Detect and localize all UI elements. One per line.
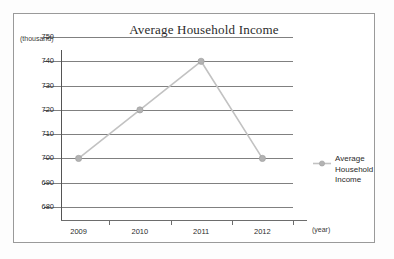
x-axis-tick [232, 220, 233, 225]
x-axis-tick-label: 2010 [120, 227, 160, 236]
x-axis-tick [293, 220, 294, 225]
x-axis-unit-label: (year) [312, 226, 330, 233]
gridline [48, 37, 293, 38]
gridline [48, 110, 293, 111]
x-axis-tick [109, 220, 110, 225]
legend-label: Average Household Income [335, 154, 387, 186]
gridline [48, 183, 293, 184]
y-axis-tick-label: 700 [28, 153, 54, 162]
gridline [48, 134, 293, 135]
x-axis-tick-label: 2009 [59, 227, 99, 236]
y-axis-tick-label: 690 [28, 178, 54, 187]
y-axis-tick-label: 750 [28, 32, 54, 41]
x-axis-tick-label: 2011 [181, 227, 221, 236]
legend-label-line-3: Income [335, 175, 387, 186]
series-line-chart [14, 14, 394, 259]
legend-marker-icon [313, 159, 331, 168]
y-axis-tick-label: 710 [28, 129, 54, 138]
gridline [48, 61, 293, 62]
legend-label-line-2: Household [335, 165, 387, 176]
y-axis-tick-label: 680 [28, 202, 54, 211]
y-axis-tick-label: 720 [28, 105, 54, 114]
x-axis-tick-label: 2012 [242, 227, 282, 236]
y-axis-tick-label: 730 [28, 81, 54, 90]
legend-label-line-1: Average [335, 154, 387, 165]
x-axis-tick [171, 220, 172, 225]
y-axis-tick-label: 740 [28, 56, 54, 65]
gridline [48, 158, 293, 159]
chart-title: Average Household Income [74, 22, 334, 38]
x-axis-line [61, 220, 307, 221]
gridline [48, 86, 293, 87]
gridline [48, 207, 293, 208]
chart-frame: Average Household Income (thousand) (yea… [13, 13, 375, 243]
y-axis-line [61, 50, 62, 221]
